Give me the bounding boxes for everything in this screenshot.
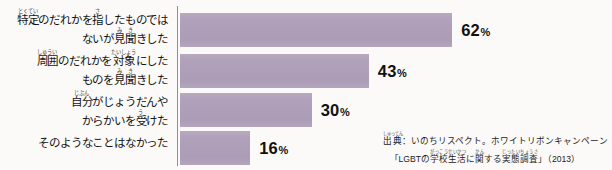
source-note: 出典しゅってん：いのちリスペクト。ホワイトリボンキャンペーン 「LGBTの学校生… — [383, 131, 609, 166]
ruby-ki-2: 聞き — [125, 74, 136, 86]
bar-value-3: 16% — [259, 139, 288, 158]
ruby-shuui: 周囲しゅうい — [37, 55, 59, 67]
bar-2 — [180, 93, 312, 127]
ruby-taishou: 対象たいしょう — [112, 55, 135, 67]
lgbt-text: LGBT — [399, 154, 421, 164]
category-label-2-line1: 自分じぶんがじょうだんや — [0, 90, 168, 109]
percent-sign-3: % — [279, 144, 289, 156]
bar-1 — [180, 54, 369, 88]
percent-sign-0: % — [480, 26, 490, 38]
category-label-0: 特定とくていのだれかを指さしたものでは ないが見み聞ききした — [0, 8, 168, 46]
category-label-column: 特定とくていのだれかを指さしたものでは ないが見み聞ききした 周囲しゅういのだれ… — [0, 0, 172, 170]
ruby-u: 受う — [136, 115, 147, 127]
bar-value-1: 43% — [378, 62, 407, 81]
ruby-sa: 指さ — [92, 14, 103, 26]
category-label-3-line1: そのようなことはなかった — [0, 138, 168, 157]
category-label-1-line1: 周囲しゅういのだれかを対象たいしょうにした — [0, 49, 168, 68]
value-axis-line — [177, 6, 178, 166]
percent-sign-1: % — [397, 67, 407, 79]
horizontal-bar-chart: 特定とくていのだれかを指さしたものでは ないが見み聞ききした 周囲しゅういのだれ… — [0, 0, 612, 170]
ruby-shutten: 出典しゅってん — [383, 136, 403, 146]
ruby-ki: 聞き — [125, 33, 136, 45]
ruby-gakkouseikatsu: 学校生活がっこうせいかつ — [430, 154, 466, 164]
ruby-jittaichousa: 実態調査じったいちょうさ — [502, 154, 538, 164]
ruby-mi: 見み — [114, 33, 125, 45]
bar-value-2: 30% — [321, 101, 350, 120]
percent-sign-2: % — [340, 106, 350, 118]
source-line-2: 「LGBTの学校生活がっこうせいかつに関かんする実態調査じったいちょうさ」（20… — [383, 149, 609, 166]
ruby-mi-2: 見み — [114, 74, 125, 86]
ruby-tokutei: 特定とくてい — [17, 14, 39, 26]
category-label-0-line1: 特定とくていのだれかを指さしたものでは — [0, 8, 168, 27]
ruby-kan: 関かん — [475, 154, 484, 164]
bar-0 — [180, 13, 452, 47]
category-label-1: 周囲しゅういのだれかを対象たいしょうにした ものを見み聞ききした — [0, 49, 168, 87]
category-label-2: 自分じぶんがじょうだんや からかいを受うけた — [0, 90, 168, 128]
category-label-1-line2: ものを見み聞ききした — [0, 68, 168, 87]
category-label-0-line2: ないが見み聞ききした — [0, 27, 168, 46]
category-label-3: そのようなことはなかった — [0, 138, 168, 157]
bar-3 — [180, 131, 250, 165]
category-label-2-line2: からかいを受うけた — [0, 109, 168, 128]
source-line-1: 出典しゅってん：いのちリスペクト。ホワイトリボンキャンペーン — [383, 131, 609, 148]
bar-value-0: 62% — [461, 21, 490, 40]
ruby-jibun: 自分じぶん — [71, 96, 93, 108]
